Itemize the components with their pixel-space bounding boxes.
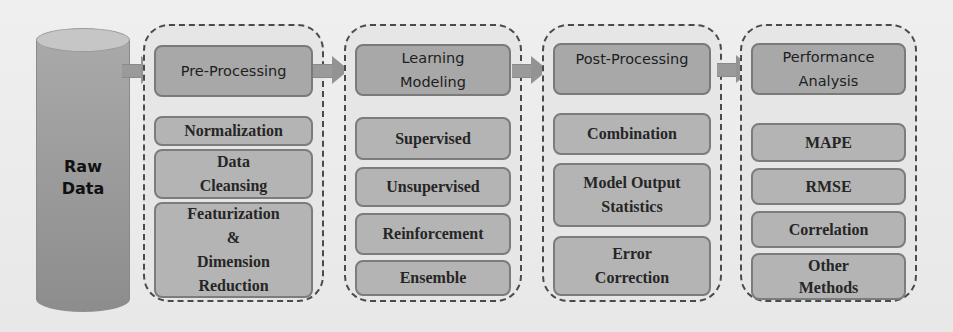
stage-performance-analysis: Performance Analysis MAPE RMSE Correlati… [740,24,917,302]
stage-item: Combination [553,113,711,155]
stage-header: Post-Processing [553,43,711,95]
stage-item: Error Correction [553,236,711,296]
stage-header: Performance Analysis [751,43,906,95]
raw-data-cylinder: Raw Data [36,28,130,313]
stage-item: Reinforcement [355,213,511,255]
stage-post-processing: Post-Processing Combination Model Output… [542,24,722,302]
raw-data-label-line2: Data [36,178,130,200]
stage-item: Supervised [355,117,511,160]
stage-header: Learning Modeling [355,44,511,96]
stage-pre-processing: Pre-Processing Normalization Data Cleans… [143,24,324,302]
pipeline-diagram: Raw Data Pre-Processing Normalization Da… [0,0,953,332]
stage-item: RMSE [751,168,906,205]
stage-learning-modeling: Learning Modeling Supervised Unsupervise… [344,24,522,302]
stage-item: Model Output Statistics [553,163,711,227]
stage-item: Ensemble [355,260,511,296]
stage-item: Correlation [751,211,906,248]
raw-data-label-line1: Raw [36,156,130,178]
cylinder-top [36,28,130,52]
raw-data-label: Raw Data [36,156,130,200]
stage-item: Unsupervised [355,167,511,207]
stage-item: Other Methods [751,253,906,300]
stage-item: Featurization & Dimension Reduction [154,202,313,298]
stage-item: MAPE [751,123,906,162]
stage-header: Pre-Processing [154,45,313,97]
stage-item: Data Cleansing [154,149,313,199]
stage-item: Normalization [154,116,313,146]
